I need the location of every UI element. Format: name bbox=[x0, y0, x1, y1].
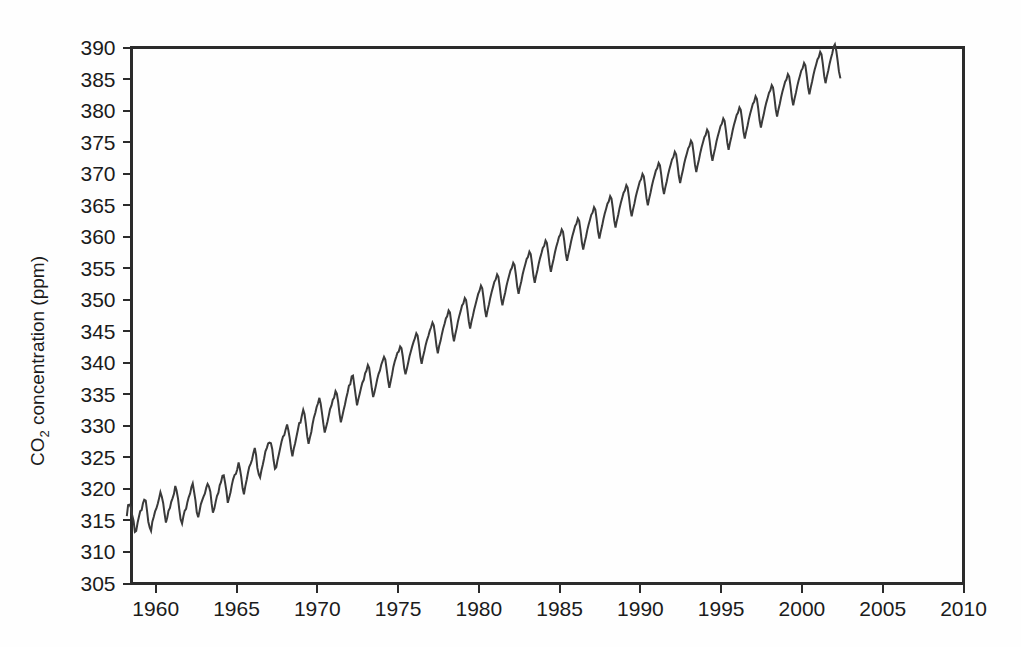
y-tick-label: 335 bbox=[80, 383, 115, 406]
y-tick-label: 380 bbox=[80, 99, 115, 122]
y-tick-label: 340 bbox=[80, 351, 115, 374]
chart-background bbox=[0, 0, 1021, 647]
x-tick-label: 1965 bbox=[213, 597, 260, 620]
y-tick-label: 385 bbox=[80, 68, 115, 91]
x-tick-label: 1970 bbox=[294, 597, 341, 620]
y-tick-label: 360 bbox=[80, 225, 115, 248]
y-tick-label: 365 bbox=[80, 194, 115, 217]
y-tick-label: 330 bbox=[80, 414, 115, 437]
co2-concentration-chart: 1960196519701975198019851990199520002005… bbox=[0, 0, 1021, 647]
y-axis-title-prefix: CO bbox=[27, 438, 48, 467]
y-tick-label: 320 bbox=[80, 477, 115, 500]
x-tick-label: 1995 bbox=[698, 597, 745, 620]
x-tick-label: 2010 bbox=[940, 597, 987, 620]
y-tick-label: 315 bbox=[80, 509, 115, 532]
x-tick-label: 1975 bbox=[375, 597, 422, 620]
y-tick-label: 390 bbox=[80, 36, 115, 59]
y-tick-label: 310 bbox=[80, 540, 115, 563]
chart-page: 1960196519701975198019851990199520002005… bbox=[0, 0, 1021, 647]
y-tick-label: 345 bbox=[80, 320, 115, 343]
x-tick-label: 1960 bbox=[132, 597, 179, 620]
x-tick-label: 1990 bbox=[617, 597, 664, 620]
y-tick-label: 375 bbox=[80, 131, 115, 154]
x-tick-label: 2000 bbox=[779, 597, 826, 620]
x-tick-label: 1980 bbox=[455, 597, 502, 620]
y-axis-title-subscript: 2 bbox=[37, 430, 52, 437]
x-tick-label: 2005 bbox=[859, 597, 906, 620]
x-tick-label: 1985 bbox=[536, 597, 583, 620]
y-tick-label: 350 bbox=[80, 288, 115, 311]
y-tick-label: 370 bbox=[80, 162, 115, 185]
y-axis-title-suffix: concentration (ppm) bbox=[27, 256, 48, 430]
y-tick-label: 305 bbox=[80, 572, 115, 595]
y-tick-label: 325 bbox=[80, 446, 115, 469]
y-tick-label: 355 bbox=[80, 257, 115, 280]
